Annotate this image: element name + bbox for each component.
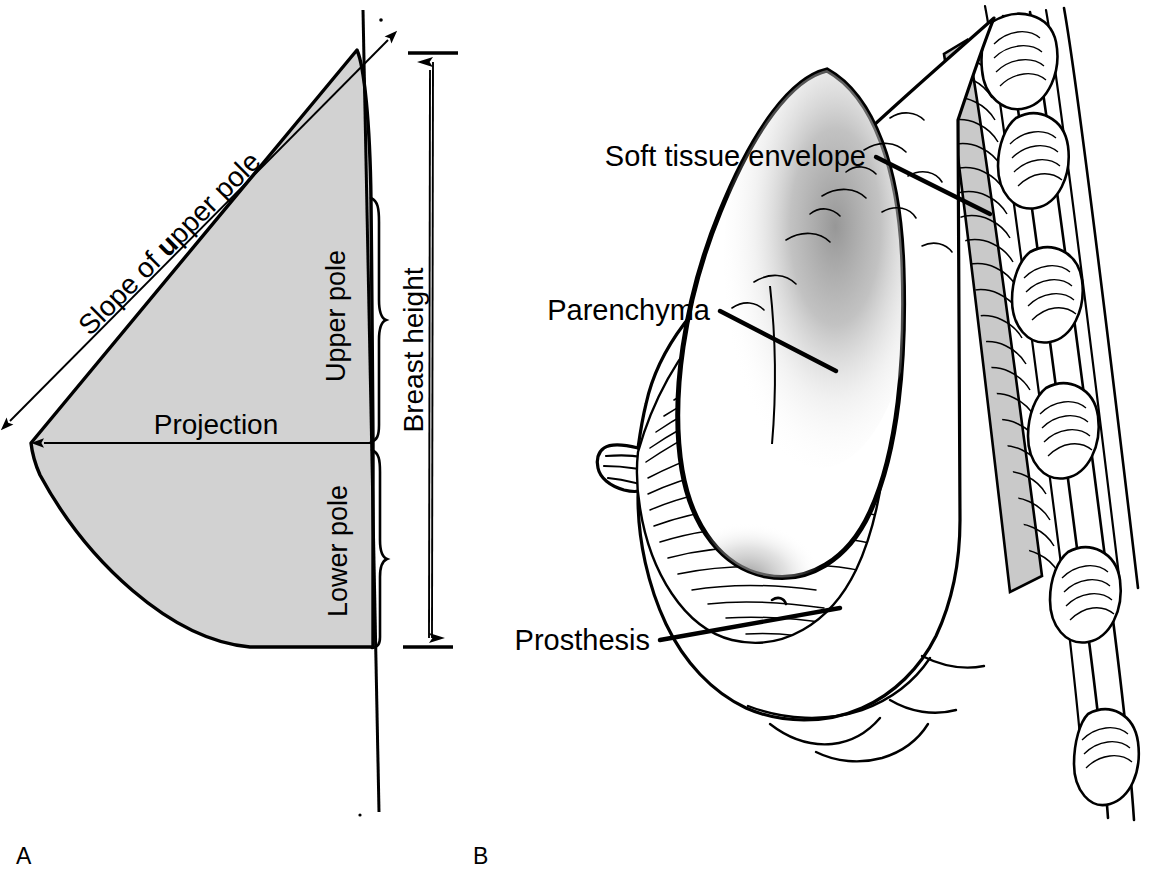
rib	[1012, 247, 1083, 342]
lower-pole-label: Lower pole	[323, 485, 353, 617]
prosthesis-label: Prosthesis	[515, 624, 650, 656]
rib	[1074, 709, 1139, 805]
upper-pole-label: Upper pole	[321, 250, 351, 382]
panel-a: Slope of upper pole Projection Upper pol…	[0, 0, 520, 890]
soft-tissue-envelope-label: Soft tissue envelope	[605, 140, 866, 172]
reference-line-dot	[358, 813, 361, 816]
panel-b-letter: B	[473, 845, 489, 868]
parenchyma-label: Parenchyma	[547, 294, 711, 326]
rib	[1050, 547, 1121, 642]
panel-a-letter: A	[16, 845, 32, 868]
figure-canvas: Slope of upper pole Projection Upper pol…	[0, 0, 1153, 890]
rib	[981, 14, 1057, 109]
projection-label: Projection	[154, 409, 279, 440]
breast-height-label: Breast height	[398, 267, 429, 432]
panel-a-drawing: Slope of upper pole Projection Upper pol…	[0, 0, 520, 890]
panel-b-drawing: Soft tissue envelope Parenchyma Prosthes…	[470, 0, 1153, 890]
reference-line-dot-top	[379, 18, 383, 22]
rib	[998, 113, 1069, 208]
panel-b: Soft tissue envelope Parenchyma Prosthes…	[470, 0, 1153, 890]
rib	[1028, 383, 1099, 478]
